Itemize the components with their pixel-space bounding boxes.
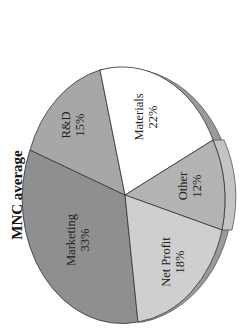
label-other: Other 12%: [176, 171, 204, 200]
pie-chart: MNC average Marketing 33% R&D 15% Materi…: [0, 0, 247, 335]
svg-text:R&D: R&D: [59, 111, 73, 138]
svg-text:Materials: Materials: [132, 93, 146, 140]
svg-text:Net Profit: Net Profit: [159, 237, 173, 287]
svg-text:33%: 33%: [78, 229, 92, 252]
label-rnd: R&D 15%: [59, 111, 87, 138]
svg-text:22%: 22%: [146, 106, 160, 129]
svg-text:Other: Other: [176, 171, 190, 200]
svg-text:Marketing: Marketing: [64, 213, 78, 266]
svg-text:12%: 12%: [190, 175, 204, 198]
chart-title: MNC average: [9, 150, 25, 240]
svg-text:18%: 18%: [173, 251, 187, 274]
svg-text:15%: 15%: [73, 114, 87, 137]
